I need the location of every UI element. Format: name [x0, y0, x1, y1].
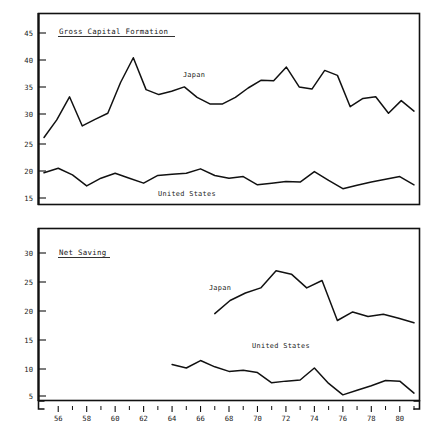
- panel-net-saving: 30 25 20 15 10 5 Net Saving Japan United…: [0, 220, 432, 425]
- panel-gross-capital-formation: 45 40 35 30 25 20 15 Gross Capital Forma…: [0, 0, 432, 220]
- x-tick-label-64: 64: [168, 414, 177, 423]
- line-japan-net-saving: [215, 271, 414, 323]
- y-tick-label-25-bottom: 25: [24, 278, 33, 287]
- x-axis: 56586062646668707274767880: [39, 401, 420, 423]
- series-label-japan-bottom: Japan: [209, 284, 231, 292]
- x-tick-label-76: 76: [339, 414, 348, 423]
- y-tick-label-30-bottom: 30: [24, 249, 33, 258]
- line-united-states-net-saving: [172, 361, 414, 395]
- x-tick-label-62: 62: [139, 414, 148, 423]
- x-tick-label-70: 70: [253, 414, 262, 423]
- y-tick-label-40-top: 40: [24, 56, 33, 65]
- series-label-united-states-top: United States: [158, 190, 216, 198]
- x-tick-label-72: 72: [282, 414, 291, 423]
- y-tick-label-15-bottom: 15: [24, 336, 33, 345]
- y-ticks-bottom: [39, 253, 47, 396]
- y-tick-label-10-bottom: 10: [24, 365, 33, 374]
- x-tick-label-74: 74: [310, 414, 319, 423]
- y-tick-label-35-top: 35: [24, 83, 33, 92]
- y-tick-label-30-top: 30: [24, 110, 33, 119]
- y-tick-label-20-bottom: 20: [24, 307, 33, 316]
- x-tick-label-80: 80: [395, 414, 404, 423]
- series-label-japan-top: Japan: [183, 71, 205, 79]
- x-tick-label-68: 68: [225, 414, 234, 423]
- panel-title-bottom: Net Saving: [59, 248, 107, 257]
- x-tick-label-60: 60: [111, 414, 120, 423]
- figure-root: 45 40 35 30 25 20 15 Gross Capital Forma…: [0, 0, 432, 425]
- line-united-states-gross-capital-formation: [44, 168, 414, 188]
- y-tick-label-20-top: 20: [24, 167, 33, 176]
- y-ticks-top: [39, 33, 47, 198]
- line-japan-gross-capital-formation: [44, 58, 414, 138]
- y-tick-label-25-top: 25: [24, 140, 33, 149]
- series-label-united-states-bottom: United States: [252, 342, 310, 350]
- y-tick-label-5-bottom: 5: [29, 392, 33, 401]
- x-tick-label-58: 58: [82, 414, 91, 423]
- y-tick-label-15-top: 15: [24, 194, 33, 203]
- x-axis-cap-left: [39, 401, 45, 409]
- x-tick-label-78: 78: [367, 414, 376, 423]
- x-tick-label-66: 66: [196, 414, 205, 423]
- panel-title-top: Gross Capital Formation: [59, 27, 168, 36]
- y-tick-label-45-top: 45: [24, 29, 33, 38]
- x-tick-label-56: 56: [54, 414, 63, 423]
- plot-frame-top: [39, 14, 420, 205]
